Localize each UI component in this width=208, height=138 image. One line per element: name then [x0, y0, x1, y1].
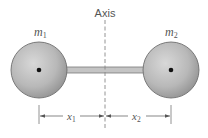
distance-label-x2: x2	[131, 110, 141, 124]
center-of-mass-dot-left	[37, 68, 42, 73]
arrow-left-icon	[106, 114, 111, 118]
arrow-left-icon	[40, 114, 45, 118]
sphere-left	[11, 42, 67, 98]
dumbbell-diagram: Axis m1 m2 x1 x2	[0, 0, 208, 138]
axis-label: Axis	[95, 7, 116, 19]
arrow-right-icon	[165, 114, 170, 118]
sphere-right	[143, 42, 199, 98]
arrow-right-icon	[99, 114, 104, 118]
distance-label-x1: x1	[66, 110, 76, 124]
mass-label-right: m2	[165, 25, 178, 40]
mass-label-left: m1	[34, 25, 47, 40]
center-of-mass-dot-right	[169, 68, 174, 73]
